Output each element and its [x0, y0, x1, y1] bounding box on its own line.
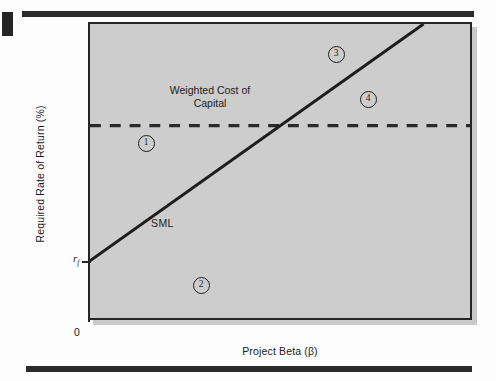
x-axis-label: Project Beta (β) — [138, 345, 422, 357]
plot-area: Weighted Cost of Capital SML 1 2 3 4 — [88, 22, 472, 320]
y-axis-label: Required Rate of Return (%) — [34, 64, 46, 284]
sml-figure: Weighted Cost of Capital SML 1 2 3 4 rf … — [0, 0, 496, 381]
origin-label: 0 — [74, 326, 80, 338]
y-axis-line — [88, 22, 90, 322]
risk-free-rate-label: rf — [73, 252, 79, 267]
wacc-caption-line2: Capital — [120, 97, 300, 110]
rf-subscript: f — [77, 258, 79, 267]
sml-caption: SML — [151, 217, 174, 229]
chart-lines — [90, 24, 470, 318]
project-marker-4: 4 — [360, 91, 377, 108]
wacc-caption: Weighted Cost of Capital — [120, 84, 300, 110]
top-rule — [22, 11, 474, 17]
page-corner-mark — [2, 12, 13, 36]
wacc-caption-line1: Weighted Cost of — [120, 84, 300, 97]
bottom-rule — [26, 366, 472, 372]
risk-free-rate-tick — [82, 261, 91, 263]
project-marker-1: 1 — [138, 135, 155, 152]
project-marker-2: 2 — [193, 277, 210, 294]
project-marker-3: 3 — [328, 46, 345, 63]
